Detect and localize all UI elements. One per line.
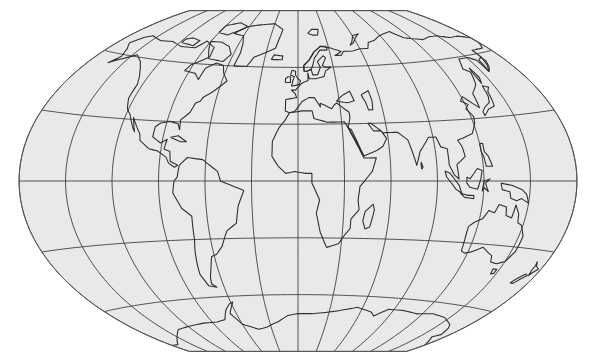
map-canvas — [0, 0, 598, 361]
world-map — [0, 0, 598, 361]
